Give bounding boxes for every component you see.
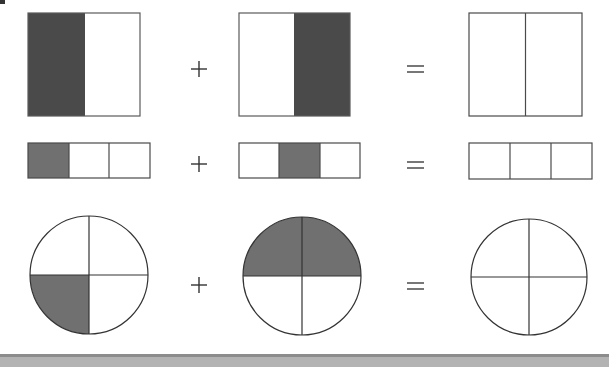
plus-sign-row-1 — [191, 61, 207, 77]
row-3-quarters — [30, 216, 587, 335]
empty-half — [85, 13, 140, 116]
row-2-operand-2 — [239, 143, 360, 178]
row-2-result — [469, 143, 592, 179]
empty-half — [239, 13, 294, 116]
row-1-result — [469, 13, 582, 116]
plus-sign-row-2 — [191, 156, 207, 172]
shaded-half — [28, 13, 85, 116]
corner-mark — [0, 0, 5, 4]
row-3-operand-1 — [30, 216, 148, 334]
fraction-addition-diagram — [0, 0, 609, 367]
row-2-thirds — [28, 143, 592, 179]
row-3-operand-2 — [243, 217, 361, 335]
equals-sign-row-1 — [407, 66, 424, 72]
row-3-result — [471, 219, 587, 335]
equals-sign-row-3 — [407, 283, 424, 289]
equals-sign-row-2 — [407, 162, 424, 168]
shaded-third — [279, 143, 320, 178]
row-1-operand-2 — [239, 13, 350, 116]
bottom-band — [0, 354, 609, 367]
outline — [469, 143, 592, 179]
shaded-third — [28, 143, 69, 178]
row-2-operand-1 — [28, 143, 150, 178]
row-1-halves — [28, 13, 582, 116]
plus-sign-row-3 — [191, 277, 207, 293]
row-1-operand-1 — [28, 13, 140, 116]
shaded-quarter-bottom-left — [30, 275, 89, 334]
shaded-half — [294, 13, 350, 116]
